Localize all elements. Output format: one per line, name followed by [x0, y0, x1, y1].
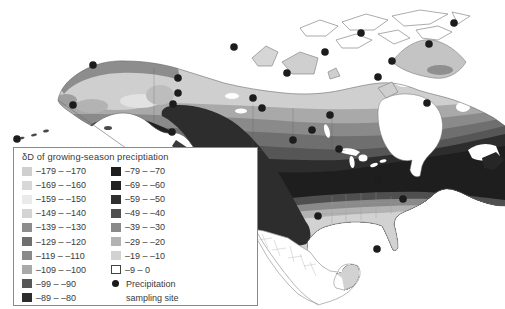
queen-elizabeth-island-2 — [342, 14, 388, 30]
sampling-site-dot — [373, 245, 381, 253]
kodiak-island — [104, 126, 112, 130]
legend-site-label-line2: sampling site — [126, 293, 179, 303]
sampling-site-dot — [425, 40, 433, 48]
sampling-site-dot — [308, 126, 316, 134]
sampling-site-dot — [289, 136, 297, 144]
great-slave-lake — [235, 109, 247, 114]
legend-entry: –59 – –50 — [111, 192, 257, 206]
sampling-site-dot — [357, 29, 365, 37]
legend-entry-label: –139 – –130 — [36, 222, 86, 232]
legend-entry-label: –149 – –140 — [36, 208, 86, 218]
legend-title: δD of growing-season preciptiation — [22, 151, 257, 164]
legend-site-entry: Precipitation — [111, 277, 257, 291]
sampling-site-dot — [168, 128, 176, 136]
legend-entry-label: –79 – –70 — [125, 166, 165, 176]
legend-swatch — [111, 181, 121, 190]
legend-swatch — [22, 279, 32, 288]
devon-island — [378, 30, 410, 44]
sampling-site-dot — [326, 111, 334, 119]
legend-swatch — [111, 237, 121, 246]
legend-entry-label: –159 – –150 — [36, 194, 86, 204]
legend-entry: –69 – –60 — [111, 178, 257, 192]
legend-left-column: –179 – –170–169 – –160–159 – –150–149 – … — [22, 164, 111, 305]
sampling-site-dot — [174, 89, 182, 97]
legend-swatch — [22, 237, 32, 246]
sampling-site-dot — [374, 73, 382, 81]
legend-right-column: –79 – –70–69 – –60–59 – –50–49 – –40–39 … — [111, 164, 257, 277]
legend-entry-label: –59 – –50 — [125, 194, 165, 204]
legend-site-label-line1: Precipitation — [126, 279, 176, 289]
great-bear-lake — [225, 93, 239, 99]
ellesmere-island — [392, 10, 448, 26]
legend-entry: –139 – –130 — [22, 220, 111, 234]
legend-swatch — [111, 209, 121, 218]
legend-entry-label: –69 – –60 — [125, 180, 165, 190]
legend-swatch — [111, 265, 121, 274]
sampling-site-dot — [335, 145, 343, 153]
legend-entry: –49 – –40 — [111, 206, 257, 220]
sampling-site-dot — [258, 104, 266, 112]
legend-swatch — [22, 293, 32, 302]
legend-entry: –109 – –100 — [22, 263, 111, 277]
legend-swatch — [22, 251, 32, 260]
legend-entry-label: –119 – –110 — [36, 251, 85, 261]
legend-columns: –179 – –170–169 – –160–159 – –150–149 – … — [22, 164, 257, 305]
legend-entry: –79 – –70 — [111, 164, 257, 178]
baffin-south-band — [427, 65, 453, 75]
legend-entry-label: –109 – –100 — [36, 265, 86, 275]
legend-swatch — [111, 223, 121, 232]
sampling-site-dot — [174, 74, 182, 82]
legend-entry-label: –89 – –80 — [36, 293, 76, 303]
lake-huron — [359, 155, 368, 162]
alaska-southwest-medium — [76, 99, 108, 113]
devon-island-east — [416, 26, 452, 40]
legend-site-entry-line2: sampling site — [111, 291, 257, 305]
sampling-site-dot — [69, 101, 77, 109]
sampling-site-dot — [314, 212, 322, 220]
bigbend-dark-patch — [290, 220, 310, 244]
sampling-site-dot — [249, 94, 257, 102]
legend-entry: –179 – –170 — [22, 164, 111, 178]
legend-swatch — [22, 181, 32, 190]
foxe-basin — [393, 73, 417, 87]
sampling-site-dot — [423, 99, 431, 107]
figure-root: δD of growing-season preciptiation –179 … — [0, 0, 505, 309]
legend-entry-label: –9 – 0 — [125, 265, 150, 275]
legend-entry: –39 – –30 — [111, 220, 257, 234]
legend-entry: –119 – –110 — [22, 249, 111, 263]
arctic-islands — [252, 10, 470, 98]
legend-entry: –19 – –10 — [111, 249, 257, 263]
legend-box: δD of growing-season preciptiation –179 … — [13, 147, 258, 306]
sampling-site-dot — [374, 176, 382, 184]
legend-entry-label: –39 – –30 — [125, 222, 165, 232]
legend-right-column-wrap: –79 – –70–69 – –60–59 – –50–49 – –40–39 … — [111, 164, 257, 305]
legend-entry-label: –129 – –120 — [36, 237, 86, 247]
legend-entry-label: –19 – –10 — [125, 251, 165, 261]
legend-entry-label: –99 – –90 — [36, 279, 76, 289]
melville-island — [336, 34, 372, 48]
queen-elizabeth-island-1 — [300, 20, 338, 36]
legend-entry: –129 – –120 — [22, 234, 111, 248]
sampling-site-dot — [388, 57, 396, 65]
king-william-island — [328, 68, 340, 79]
legend-swatch — [22, 223, 32, 232]
sampling-site-dot — [89, 61, 97, 69]
sampling-site-dot — [321, 48, 329, 56]
sampling-site-dot — [450, 19, 458, 27]
sampling-site-legend-dot-icon — [112, 280, 119, 287]
sampling-site-dot — [283, 69, 291, 77]
legend-entry-label: –179 – –170 — [36, 166, 86, 176]
legend-entry: –89 – –80 — [22, 291, 111, 305]
sampling-site-dot — [230, 43, 238, 51]
legend-entry-label: –29 – –20 — [125, 237, 165, 247]
legend-entry: –29 – –20 — [111, 234, 257, 248]
banks-island — [252, 46, 278, 66]
legend-swatch — [22, 167, 32, 176]
legend-entry: –149 – –140 — [22, 206, 111, 220]
legend-swatch — [22, 209, 32, 218]
legend-swatch — [111, 195, 121, 204]
legend-swatch — [111, 251, 121, 260]
legend-swatch — [111, 167, 121, 176]
sampling-site-dot — [13, 135, 21, 143]
legend-entry-label: –49 – –40 — [125, 208, 165, 218]
